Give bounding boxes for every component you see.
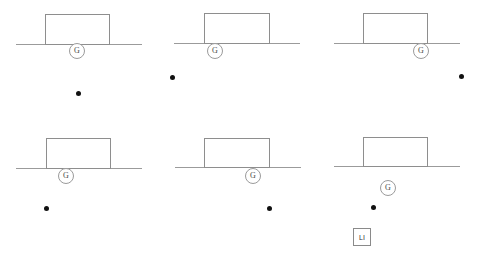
- center-of-gravity-marker: G: [380, 180, 396, 196]
- li-label-text: LI: [359, 234, 365, 241]
- block-rectangle: [363, 137, 428, 167]
- li-label-box: LI: [353, 228, 371, 246]
- scene-panel: GLI: [0, 0, 477, 259]
- center-of-gravity-label: G: [385, 184, 391, 192]
- diagram-canvas: GGGGGGLI: [0, 0, 477, 259]
- point-marker: [371, 205, 376, 210]
